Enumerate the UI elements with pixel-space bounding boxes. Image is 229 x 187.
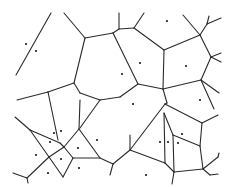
voronoi-site [60,158,62,160]
voronoi-site [145,174,147,176]
voronoi-site [177,142,179,144]
voronoi-site [166,20,168,22]
voronoi-site [49,141,51,143]
voronoi-site [167,141,169,143]
voronoi-site [159,141,161,143]
voronoi-site [199,99,201,101]
voronoi-diagram [0,0,229,187]
voronoi-site [132,103,134,105]
voronoi-site [96,139,98,141]
voronoi-site [181,133,183,135]
voronoi-site [139,62,141,64]
voronoi-site [78,167,80,169]
voronoi-site [35,50,37,52]
voronoi-site [25,43,27,45]
voronoi-site [185,65,187,67]
voronoi-site [121,73,123,75]
voronoi-site [53,132,55,134]
voronoi-site [35,154,37,156]
voronoi-site [77,147,79,149]
voronoi-site [47,172,49,174]
voronoi-site [60,130,62,132]
